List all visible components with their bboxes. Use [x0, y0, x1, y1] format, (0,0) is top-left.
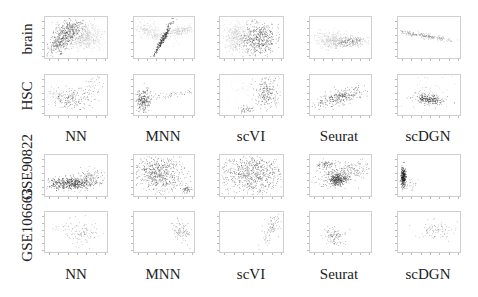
y-tick [395, 194, 397, 195]
y-tick [42, 173, 44, 174]
x-tick [58, 116, 59, 118]
x-tick [77, 197, 78, 199]
x-tick [449, 197, 450, 199]
x-tick [174, 59, 175, 61]
column-label-scdgn-bottom: scDGN [388, 265, 468, 283]
y-tick [42, 194, 44, 195]
x-tick [156, 197, 157, 199]
scatter-panel-gse90822-seurat [309, 154, 372, 197]
y-tick [42, 230, 44, 231]
y-tick [131, 106, 133, 107]
x-tick [183, 116, 184, 118]
x-tick [224, 59, 225, 61]
x-tick [147, 59, 148, 61]
x-tick [58, 197, 59, 199]
x-tick [421, 197, 422, 199]
x-tick [332, 116, 333, 118]
y-tick [395, 236, 397, 237]
x-tick [323, 197, 324, 199]
x-tick [369, 116, 370, 118]
y-tick [131, 194, 133, 195]
y-tick [395, 49, 397, 50]
column-label-nn: NN [36, 127, 116, 145]
row-label-gse106663: GSE106663 [18, 175, 36, 275]
x-tick [402, 59, 403, 61]
y-tick [131, 243, 133, 244]
scatter-panel-hsc-scvi [219, 74, 284, 116]
y-tick [307, 166, 309, 167]
x-tick [402, 116, 403, 118]
x-tick [165, 197, 166, 199]
x-tick [77, 116, 78, 118]
x-tick [183, 197, 184, 199]
x-tick [262, 116, 263, 118]
x-tick [342, 116, 343, 118]
x-tick [281, 116, 282, 118]
scatter-panel-brain-scdgn [397, 16, 461, 59]
y-tick [42, 216, 44, 217]
y-tick [307, 180, 309, 181]
x-tick [430, 116, 431, 118]
y-tick [395, 173, 397, 174]
y-tick [307, 35, 309, 36]
y-tick [131, 21, 133, 22]
x-tick [272, 197, 273, 199]
scatter-panel-hsc-mnn [133, 74, 195, 116]
scatter-panel-gse106663-seurat [309, 211, 372, 253]
x-tick [430, 197, 431, 199]
x-tick [156, 59, 157, 61]
y-tick [42, 99, 44, 100]
column-label-nn-bottom: NN [36, 265, 116, 283]
x-tick [86, 116, 87, 118]
scatter-panel-hsc-scdgn [397, 74, 461, 116]
x-tick [243, 116, 244, 118]
y-tick [307, 250, 309, 251]
y-tick [42, 42, 44, 43]
x-tick [272, 253, 273, 255]
x-tick [411, 116, 412, 118]
y-tick [307, 79, 309, 80]
y-tick [395, 21, 397, 22]
x-tick [458, 59, 459, 61]
y-tick [42, 159, 44, 160]
y-tick [131, 35, 133, 36]
y-tick [395, 180, 397, 181]
x-tick [262, 59, 263, 61]
y-tick [307, 56, 309, 57]
x-tick [243, 253, 244, 255]
x-tick [192, 116, 193, 118]
column-label-scdgn: scDGN [388, 127, 468, 145]
y-tick [395, 113, 397, 114]
x-tick [351, 253, 352, 255]
x-tick [68, 116, 69, 118]
x-tick [147, 197, 148, 199]
y-tick [217, 49, 219, 50]
x-tick [342, 253, 343, 255]
y-tick [42, 236, 44, 237]
x-tick [281, 197, 282, 199]
y-tick [307, 173, 309, 174]
column-label-seurat: Seurat [299, 127, 379, 145]
x-tick [49, 197, 50, 199]
x-tick [314, 197, 315, 199]
x-tick [86, 197, 87, 199]
x-tick [369, 253, 370, 255]
column-label-seurat-bottom: Seurat [299, 265, 379, 283]
y-tick [307, 223, 309, 224]
x-tick [323, 253, 324, 255]
x-tick [351, 197, 352, 199]
x-tick [253, 116, 254, 118]
x-tick [234, 197, 235, 199]
x-tick [234, 253, 235, 255]
y-tick [217, 86, 219, 87]
y-tick [307, 93, 309, 94]
y-tick [42, 166, 44, 167]
y-tick [42, 113, 44, 114]
x-tick [411, 197, 412, 199]
x-tick [96, 116, 97, 118]
y-tick [217, 243, 219, 244]
x-tick [458, 253, 459, 255]
x-tick [174, 253, 175, 255]
x-tick [430, 59, 431, 61]
y-tick [42, 106, 44, 107]
